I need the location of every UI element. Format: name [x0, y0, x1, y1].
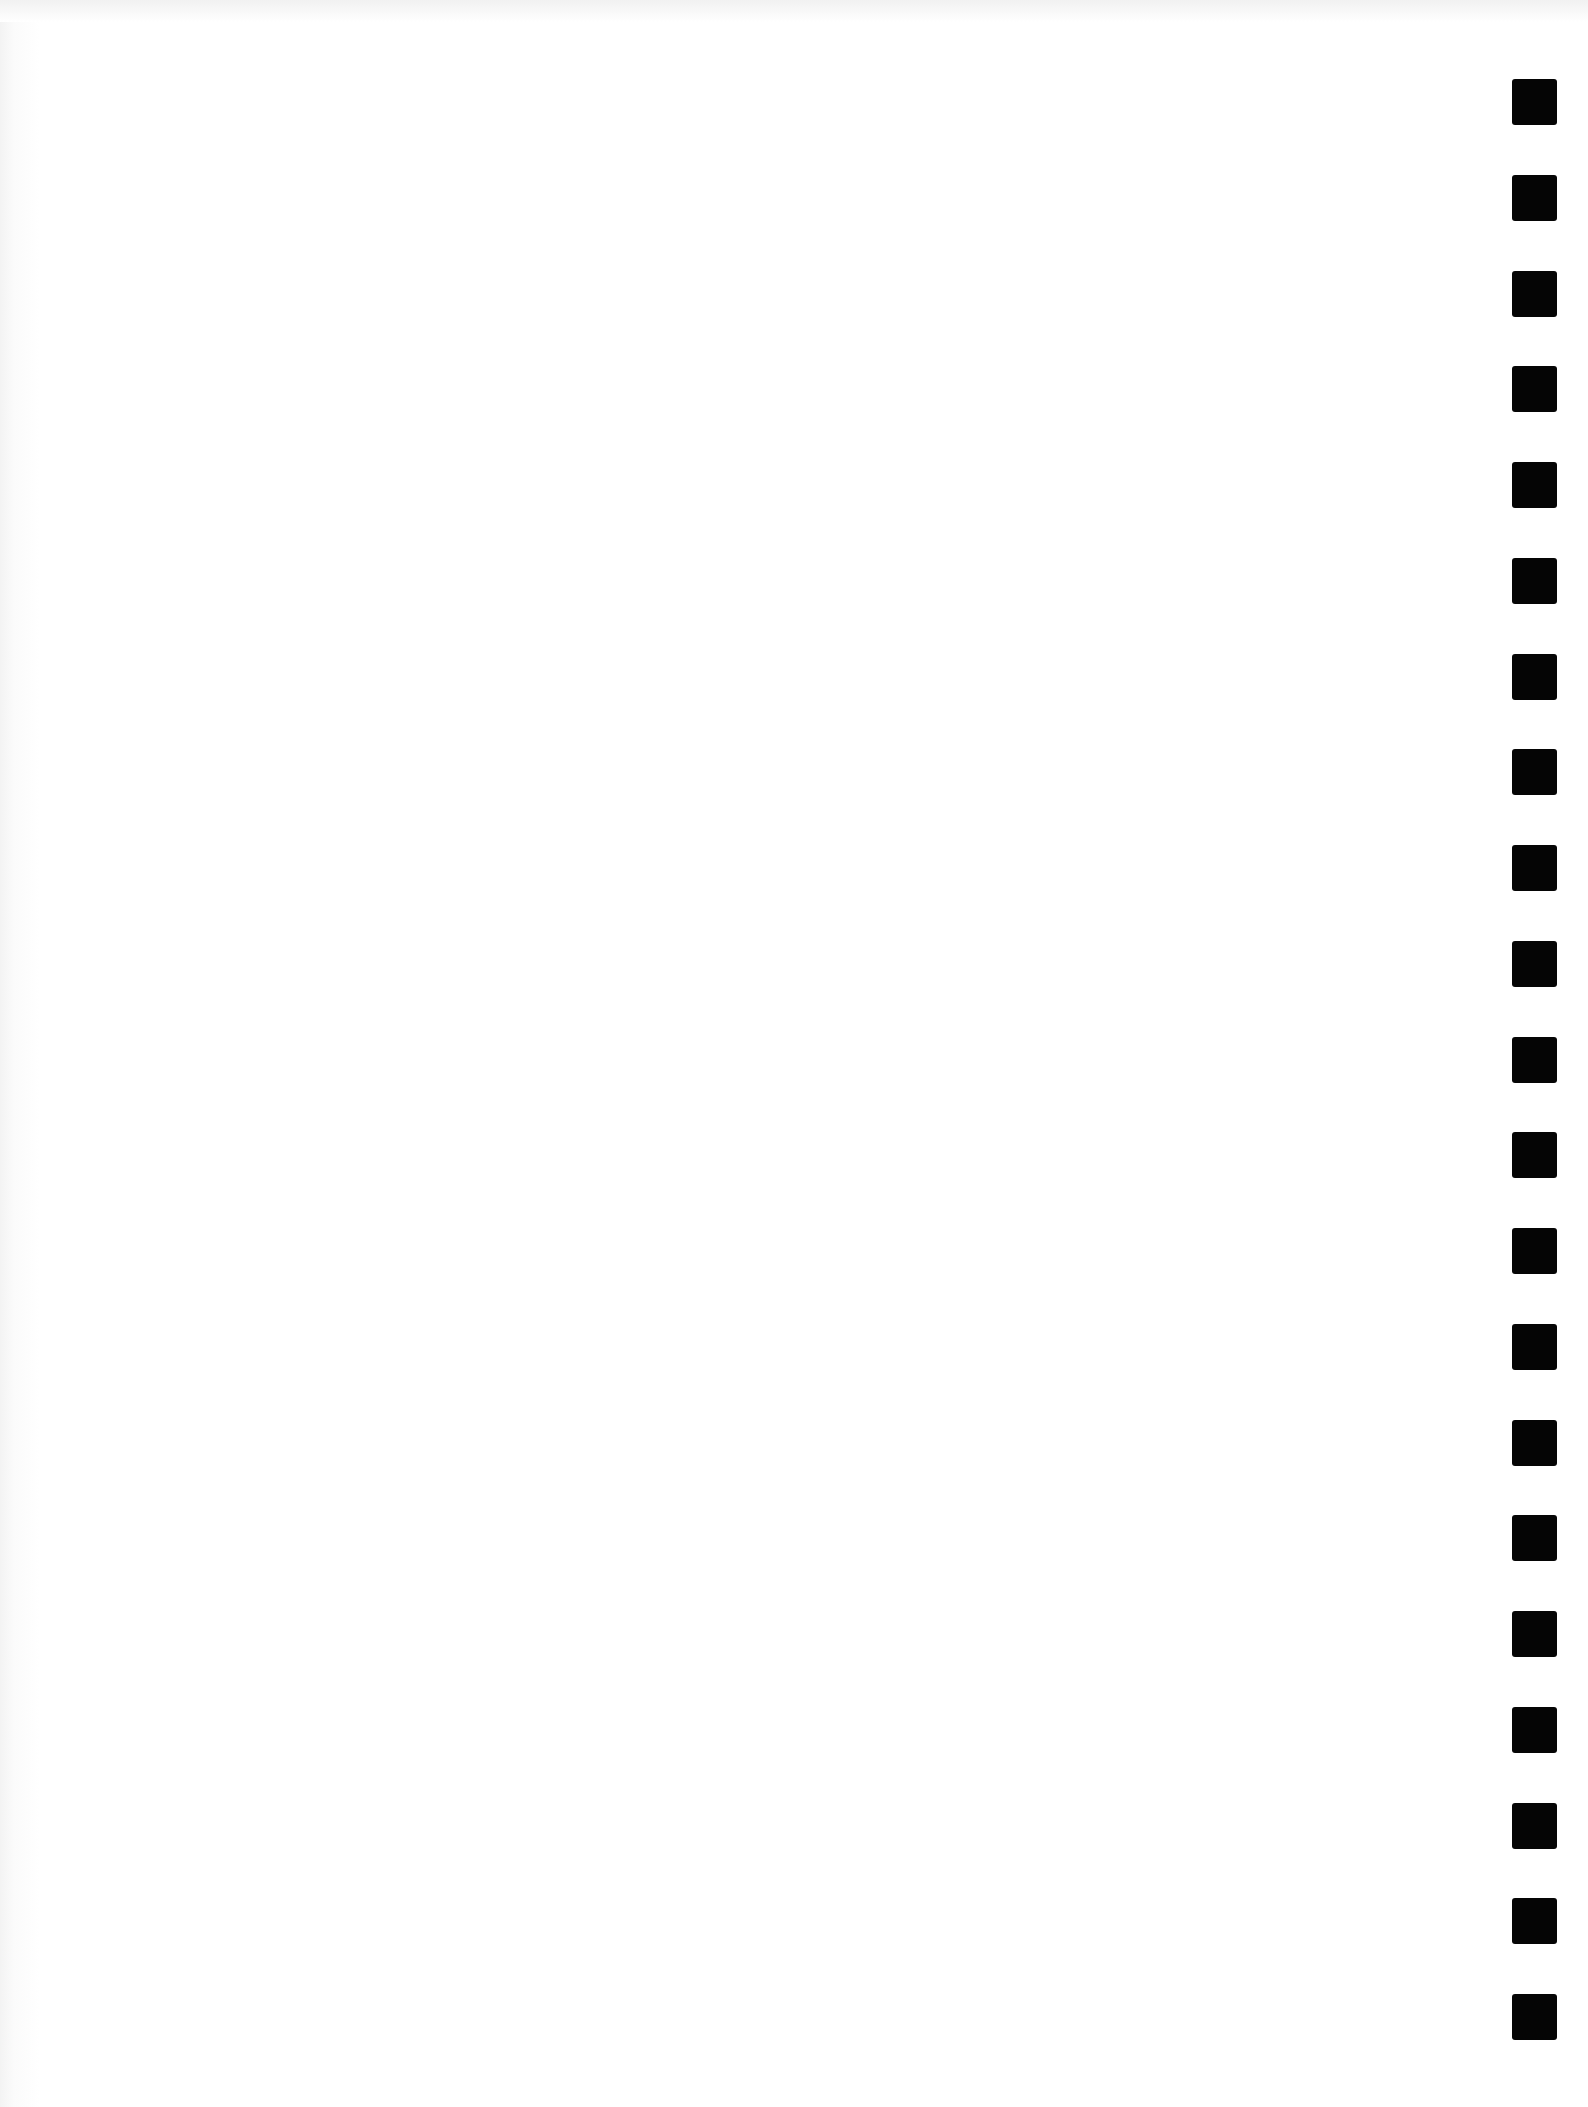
binding-hole	[1512, 941, 1557, 987]
blank-page	[0, 0, 1588, 2107]
binding-hole	[1512, 79, 1557, 125]
binding-hole	[1512, 1324, 1557, 1370]
binding-hole	[1512, 1420, 1557, 1466]
binding-hole	[1512, 558, 1557, 604]
binding-hole	[1512, 1037, 1557, 1083]
binding-hole	[1512, 1132, 1557, 1178]
binding-hole	[1512, 845, 1557, 891]
binding-hole	[1512, 1707, 1557, 1753]
binding-hole	[1512, 1228, 1557, 1274]
binding-hole	[1512, 1803, 1557, 1849]
binding-hole	[1512, 1515, 1557, 1561]
binding-hole	[1512, 271, 1557, 317]
binding-hole	[1512, 1994, 1557, 2040]
binding-hole	[1512, 366, 1557, 412]
binding-hole	[1512, 1898, 1557, 1944]
binding-hole	[1512, 175, 1557, 221]
binding-hole	[1512, 654, 1557, 700]
scan-shadow-top	[0, 0, 1588, 22]
binding-hole	[1512, 1611, 1557, 1657]
binding-hole	[1512, 749, 1557, 795]
binding-hole	[1512, 462, 1557, 508]
